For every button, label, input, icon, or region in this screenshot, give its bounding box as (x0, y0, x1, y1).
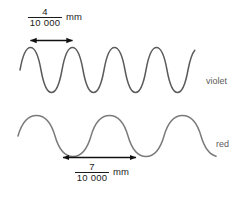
violet-wave-label: violet (206, 76, 227, 86)
violet-wavelength-measure: 4 10 000 mm (28, 7, 82, 28)
red-wave-label: red (216, 139, 229, 149)
red-wavelength-numerator: 7 (86, 162, 97, 172)
violet-wavelength-unit: mm (66, 11, 82, 23)
red-wavelength-denominator: 10 000 (76, 173, 108, 183)
violet-wavelength-fraction: 4 10 000 (28, 7, 62, 28)
violet-wavelength-denominator: 10 000 (29, 18, 61, 28)
red-wave-path (18, 116, 216, 157)
red-wavelength-unit: mm (113, 166, 129, 178)
red-wavelength-fraction: 7 10 000 (75, 162, 109, 183)
violet-wave-path (20, 48, 195, 93)
red-wavelength-measure: 7 10 000 mm (75, 162, 129, 183)
violet-wavelength-numerator: 4 (39, 7, 50, 17)
wavelength-figure: 4 10 000 mm 7 10 000 mm violet red (0, 0, 247, 200)
